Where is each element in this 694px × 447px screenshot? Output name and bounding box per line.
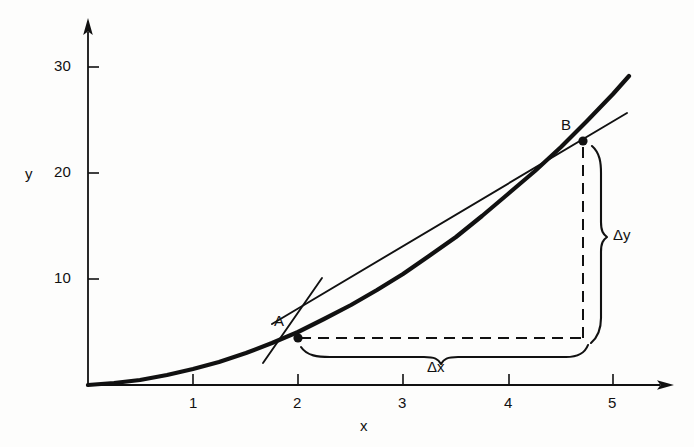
x-axis-title: x bbox=[360, 417, 368, 434]
x-tick-label-1: 1 bbox=[189, 394, 198, 411]
point-b-marker bbox=[578, 136, 587, 145]
x-tick-label-4: 4 bbox=[504, 394, 513, 411]
point-a-marker bbox=[293, 333, 302, 342]
delta-y-brace bbox=[591, 146, 607, 343]
y-tick-label-10: 10 bbox=[54, 269, 71, 286]
axis-group bbox=[83, 18, 674, 390]
point-b-label: B bbox=[561, 116, 571, 133]
plot-svg bbox=[0, 0, 694, 447]
y-axis-title: y bbox=[25, 165, 33, 182]
delta-x-label: Δx bbox=[427, 358, 445, 375]
x-tick-label-2: 2 bbox=[293, 394, 302, 411]
figure-canvas: y x 30 20 10 1 2 3 4 5 A B Δx Δy bbox=[0, 0, 694, 447]
tangent-line-at-a bbox=[263, 278, 322, 363]
point-a-label: A bbox=[274, 312, 284, 329]
x-tick-label-3: 3 bbox=[398, 394, 407, 411]
secant-line-ab bbox=[272, 113, 627, 324]
y-tick-label-30: 30 bbox=[54, 57, 71, 74]
delta-y-label: Δy bbox=[613, 226, 631, 243]
y-tick-label-20: 20 bbox=[54, 163, 71, 180]
x-tick-label-5: 5 bbox=[608, 394, 617, 411]
